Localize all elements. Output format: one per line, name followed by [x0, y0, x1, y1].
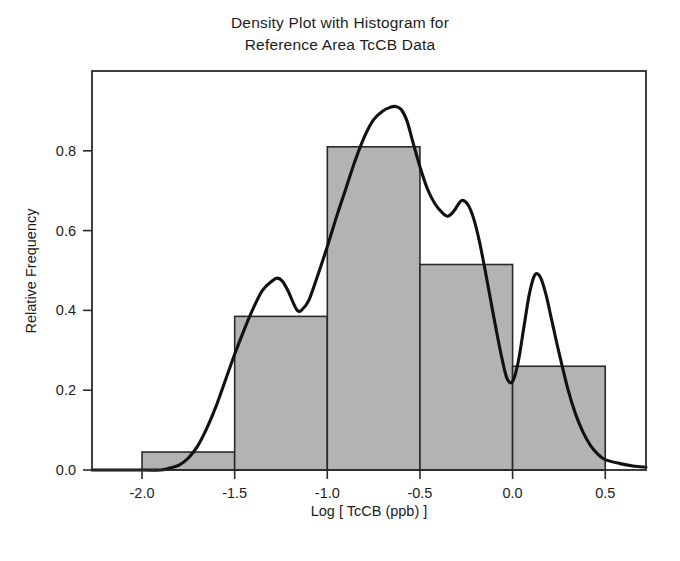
- histogram-bar: [235, 316, 328, 470]
- y-tick-label: 0.2: [56, 382, 76, 398]
- x-tick-label: 0.5: [595, 485, 615, 501]
- histogram-bar: [142, 452, 235, 470]
- y-tick-label: 0.0: [56, 462, 76, 478]
- y-tick-label: 0.6: [56, 223, 76, 239]
- density-plot-figure: Density Plot with Histogram for Referenc…: [0, 0, 680, 561]
- histogram-bar: [513, 366, 606, 470]
- x-tick-label: -0.5: [407, 485, 432, 501]
- y-tick-label: 0.8: [56, 143, 76, 159]
- x-tick-label: -1.5: [222, 485, 247, 501]
- x-axis-ticks: -2.0-1.5-1.0-0.50.00.5: [130, 470, 616, 501]
- y-tick-label: 0.4: [56, 302, 76, 318]
- x-tick-label: -2.0: [130, 485, 155, 501]
- chart-canvas: -2.0-1.5-1.0-0.50.00.5 0.00.20.40.60.8 L…: [0, 0, 680, 561]
- x-tick-label: 0.0: [503, 485, 523, 501]
- histogram-bar: [420, 265, 513, 470]
- y-axis-label: Relative Frequency: [23, 208, 39, 334]
- histogram-bar: [327, 147, 420, 470]
- x-tick-label: -1.0: [315, 485, 340, 501]
- x-axis-label: Log [ TcCB (ppb) ]: [311, 503, 428, 519]
- y-axis-ticks: 0.00.20.40.60.8: [56, 143, 92, 478]
